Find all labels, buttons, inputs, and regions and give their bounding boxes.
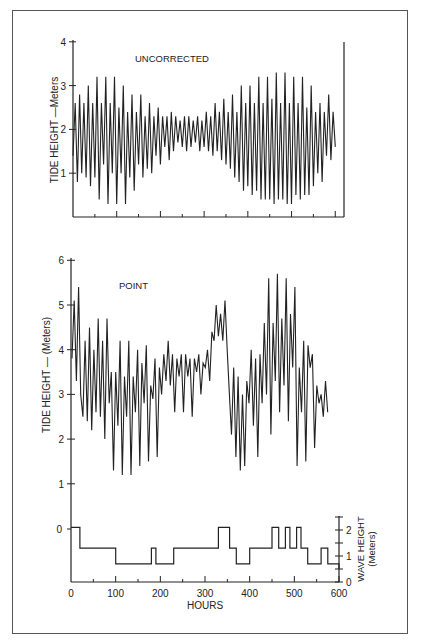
top-x-ticks — [95, 211, 335, 217]
x-tick-label: 300 — [197, 588, 214, 599]
wave-left-tick-label: 0 — [56, 524, 62, 535]
y-tick-label: 1 — [58, 479, 64, 490]
point-chart-title: POINT — [119, 280, 148, 291]
y-tick-label: 3 — [58, 389, 64, 400]
wave-tick-label: 0 — [346, 577, 352, 588]
y-tick-label: 3 — [60, 81, 66, 92]
y-tick-label: 1 — [60, 168, 66, 179]
y-tick-label: 2 — [60, 124, 66, 135]
point-chart: 123456 POINT TIDE HEIGHT — (Meters) — [41, 255, 328, 582]
top-chart: 1234 UNCORRECTED TIDE HEIGHT —Meters — [49, 37, 344, 217]
wave-tick-label: 2 — [346, 525, 352, 536]
y-tick-label: 6 — [58, 255, 64, 266]
top-y-axis-label: TIDE HEIGHT —Meters — [49, 77, 60, 184]
wave-right-ticks: 012 — [335, 517, 352, 588]
wave-chart: 0 012 0100200300400500600 WAVE HEIGHT (M… — [56, 516, 377, 611]
y-tick-label: 4 — [58, 345, 64, 356]
y-tick-label: 5 — [58, 300, 64, 311]
uncorrected-tide-series — [73, 73, 335, 204]
y-tick-label: 4 — [60, 37, 66, 48]
y-tick-label: 2 — [58, 434, 64, 445]
wave-y-axis-label-line2: (Meters) — [366, 531, 377, 566]
point-tide-series — [72, 274, 328, 475]
point-y-ticks: 123456 — [58, 255, 75, 490]
x-tick-label: 200 — [152, 588, 169, 599]
x-tick-label: 0 — [68, 588, 74, 599]
point-y-axis-label: TIDE HEIGHT — (Meters) — [41, 317, 52, 433]
wave-tick-label: 1 — [346, 551, 352, 562]
top-chart-title: UNCORRECTED — [135, 53, 209, 64]
wave-y-axis-label-line1: WAVE HEIGHT — [355, 516, 366, 582]
x-tick-label: 600 — [331, 588, 348, 599]
x-tick-label: 500 — [286, 588, 303, 599]
wave-height-step-series — [71, 527, 339, 569]
hours-x-axis-label: HOURS — [187, 600, 223, 611]
hours-x-ticks: 0100200300400500600 — [68, 576, 348, 599]
tide-figure: 1234 UNCORRECTED TIDE HEIGHT —Meters 123… — [0, 0, 422, 642]
top-y-ticks: 1234 — [60, 37, 76, 179]
x-tick-label: 100 — [107, 588, 124, 599]
x-tick-label: 400 — [241, 588, 258, 599]
